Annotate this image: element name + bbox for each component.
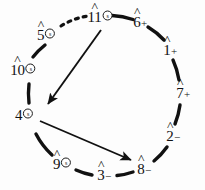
caret-icon: ^ <box>98 159 104 171</box>
circled-s-icon <box>26 64 36 74</box>
arc-2-8 <box>154 147 167 161</box>
node-label-10: ^10 <box>10 63 35 78</box>
suffix-minus: − <box>145 164 151 176</box>
circled-s-icon <box>23 109 33 119</box>
arc-4-10 <box>28 84 29 103</box>
arc-8-3 <box>117 172 133 176</box>
suffix-plus: + <box>141 17 147 29</box>
node-label-3: ^3− <box>97 168 111 183</box>
arc-11-6 <box>112 16 133 20</box>
node-label-6: ^6+ <box>133 15 147 30</box>
caret-icon: ^ <box>37 19 43 31</box>
caret-icon: ^ <box>177 77 183 89</box>
arrow-11-to-4 <box>48 30 101 104</box>
suffix-minus: − <box>105 170 111 182</box>
caret-icon: ^ <box>138 153 144 165</box>
chord-arrow-group <box>40 30 131 160</box>
circled-s-icon <box>61 158 71 168</box>
node-label-2: ^2− <box>166 129 180 144</box>
suffix-plus: + <box>171 45 177 57</box>
node-label-9: ^9 <box>53 157 71 172</box>
circled-s-icon <box>45 29 55 39</box>
caret-icon: ^ <box>164 34 170 46</box>
node-label-11: ^11 <box>88 10 113 25</box>
suffix-plus: + <box>184 88 190 100</box>
node-label-5: ^5 <box>37 28 55 43</box>
suffix-minus: − <box>174 131 180 143</box>
arc-9-4 <box>36 134 52 155</box>
node-label-8: ^8− <box>137 162 151 177</box>
arc-10-5 <box>33 45 45 57</box>
node-label-1: ^1+ <box>163 43 177 58</box>
circled-s-icon <box>102 11 112 21</box>
caret-icon: ^ <box>53 148 59 160</box>
caret-icon: ^ <box>167 120 173 132</box>
caret-icon: ^ <box>91 1 97 13</box>
node-label-7: ^7+ <box>176 86 190 101</box>
caret-icon: ^ <box>14 54 20 66</box>
arc-3-9 <box>76 170 92 175</box>
node-label-4: 4 <box>15 108 33 123</box>
scale-degree-cycle-diagram: ^11 ^6+ ^1+ ^7+ ^2− ^8− ^3− ^9 4 ^10 ^5 <box>0 0 205 190</box>
arc-7-2 <box>175 105 180 124</box>
arc-6-1 <box>148 27 164 40</box>
caret-icon: ^ <box>134 6 140 18</box>
arc-5-11 <box>61 16 88 26</box>
